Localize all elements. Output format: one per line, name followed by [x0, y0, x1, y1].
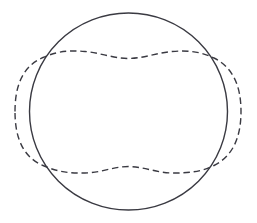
figure-canvas: [0, 0, 257, 223]
dashed-wavy-curve-path: [15, 51, 241, 173]
solid-circle-path: [30, 13, 228, 210]
geometric-figure-svg: [0, 0, 257, 223]
